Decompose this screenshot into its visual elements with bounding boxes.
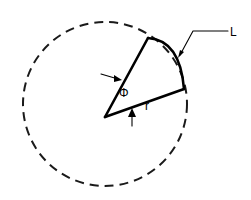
- angle-label: Φ: [119, 86, 129, 100]
- figure-root: Φ r L: [0, 0, 251, 200]
- arc-leader-arrowhead: [178, 50, 184, 58]
- arc-length-label: L: [230, 25, 237, 39]
- boundary-circle: [23, 22, 187, 186]
- radius-label: r: [145, 99, 149, 113]
- angle-arrow-upper-head: [114, 75, 122, 82]
- sector-outer-arc: [148, 38, 184, 89]
- arc-leader-line: [180, 31, 228, 55]
- circular-sector-diagram: Φ r L: [0, 0, 251, 200]
